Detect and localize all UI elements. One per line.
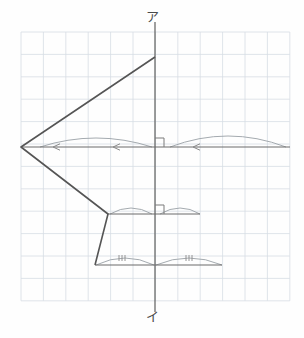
upper-right-angle xyxy=(155,138,164,147)
right-angle-marks-group xyxy=(155,138,164,214)
arcs-group xyxy=(40,136,286,265)
axis-label-top: ア xyxy=(146,6,159,25)
axis-label-bottom: イ xyxy=(146,306,159,325)
upper-right-arc xyxy=(170,136,286,147)
diagram-svg xyxy=(0,0,304,338)
geometry-diagram-canvas: ア イ xyxy=(0,0,304,338)
